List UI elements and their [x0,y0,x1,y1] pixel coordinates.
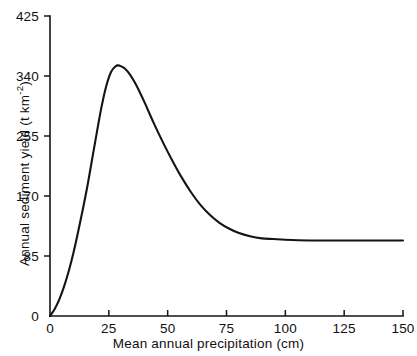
chart-plot-area [0,0,417,356]
x-tick-label: 150 [391,321,414,336]
x-tick-label: 0 [46,321,54,336]
x-tick-label: 25 [101,321,116,336]
axes-group [50,16,403,316]
x-tick-marks [109,310,403,316]
sediment-yield-chart: 085170255340425 0255075100125150 Mean an… [0,0,417,356]
y-axis-title-exponent: -2 [14,86,25,95]
sediment-yield-curve [50,65,403,316]
y-axis-title: Annual sediment yield (t km-2) [17,44,32,304]
y-axis-title-text: Annual sediment yield (t km [17,95,32,266]
y-tick-marks [44,16,50,256]
x-tick-label: 75 [219,321,234,336]
x-axis-title: Mean annual precipitation (cm) [0,336,417,351]
y-axis-title-close: ) [17,81,32,86]
y-tick-label: 425 [0,9,39,24]
x-tick-label: 100 [274,321,297,336]
x-tick-label: 50 [160,321,175,336]
x-tick-label: 125 [333,321,356,336]
y-tick-label: 0 [0,309,39,324]
